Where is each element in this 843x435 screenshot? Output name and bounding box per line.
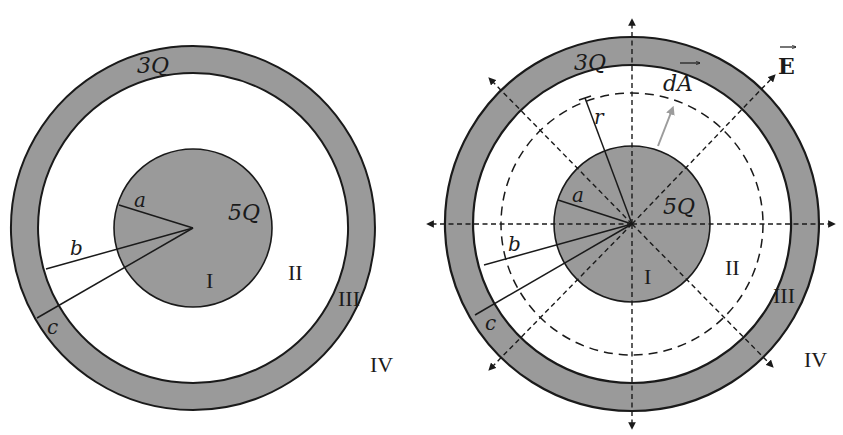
label-core-charge: 5Q (228, 200, 260, 225)
area-vector-arrow (658, 110, 672, 146)
label-core-charge: 5Q (663, 194, 695, 219)
label-region-I: I (206, 268, 213, 293)
label-area-vector: dA (663, 71, 693, 96)
label-shell-charge: 3Q (137, 53, 169, 78)
label-radius-c: c (485, 311, 496, 335)
label-radius-c: c (47, 315, 58, 339)
label-radius-a: a (572, 183, 584, 207)
label-region-III: III (338, 286, 360, 311)
label-shell-charge: 3Q (574, 50, 606, 75)
label-radius-r: r (594, 105, 605, 129)
label-radius-a: a (134, 188, 146, 212)
label-region-II: II (288, 260, 303, 285)
left-diagram: 3Q 5Q a b c I II III IV (11, 46, 393, 410)
label-electric-field: E (778, 53, 795, 79)
label-region-III: III (773, 283, 795, 308)
label-radius-b: b (70, 236, 83, 260)
label-region-I: I (644, 264, 651, 289)
label-region-II: II (725, 255, 740, 280)
right-diagram: 3Q 5Q a b c r dA E I II III IV (430, 22, 832, 426)
label-region-IV: IV (370, 352, 393, 377)
diagram-canvas: 3Q 5Q a b c I II III IV (0, 0, 843, 435)
label-radius-b: b (508, 232, 521, 256)
field-vector-label: E (778, 47, 796, 79)
label-region-IV: IV (804, 347, 827, 372)
